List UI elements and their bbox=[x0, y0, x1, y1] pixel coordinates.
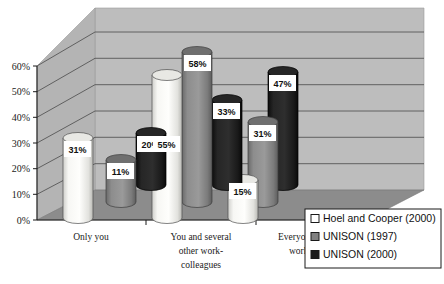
data-label-hoelcooper-g2: 55% bbox=[153, 136, 180, 152]
data-label-unison2000-g3: 47% bbox=[269, 75, 296, 91]
legend-item-unison-2000[interactable]: UNISON (2000) bbox=[311, 248, 397, 260]
cylinder-3d-bar-chart: 0% 10% 20% 30% 40% 50% 60% bbox=[0, 0, 444, 284]
y-tick-label-50: 50% bbox=[12, 86, 30, 97]
category-label-1: Only you bbox=[73, 232, 109, 242]
legend-label-hoel-and-cooper: Hoel and Cooper (2000) bbox=[323, 212, 436, 224]
legend-swatch-unison-2000 bbox=[311, 251, 319, 259]
data-label-unison1997-g2: 58% bbox=[184, 55, 211, 71]
svg-text:55%: 55% bbox=[157, 140, 175, 150]
legend-label-unison-2000: UNISON (2000) bbox=[323, 248, 397, 260]
legend: Hoel and Cooper (2000) UNISON (1997) UNI… bbox=[305, 209, 441, 268]
svg-text:47%: 47% bbox=[273, 79, 291, 89]
svg-text:33%: 33% bbox=[217, 107, 235, 117]
data-label-unison1997-g3: 31% bbox=[249, 125, 276, 141]
svg-text:15%: 15% bbox=[233, 187, 251, 197]
data-label-hoelcooper-g3: 15% bbox=[229, 183, 256, 199]
y-tick-label-10: 10% bbox=[12, 189, 30, 200]
y-tick-label-60: 60% bbox=[12, 61, 30, 72]
data-label-unison2000-g2: 33% bbox=[213, 103, 240, 119]
legend-label-unison-1997: UNISON (1997) bbox=[323, 230, 397, 242]
chart-container: 0% 10% 20% 30% 40% 50% 60% bbox=[0, 0, 444, 284]
svg-text:31%: 31% bbox=[68, 145, 86, 155]
legend-item-unison-1997[interactable]: UNISON (1997) bbox=[311, 230, 397, 242]
y-tick-label-40: 40% bbox=[12, 112, 30, 123]
category-label-2-line2: other work- bbox=[179, 246, 224, 256]
data-label-hoelcooper-g1: 31% bbox=[64, 141, 91, 157]
y-tick-label-0: 0% bbox=[17, 215, 30, 226]
y-tick-label-30: 30% bbox=[12, 138, 30, 149]
svg-text:11%: 11% bbox=[112, 167, 130, 177]
y-tick-label-20: 20% bbox=[12, 163, 30, 174]
data-label-unison1997-g1: 11% bbox=[107, 163, 134, 179]
y-axis: 0% 10% 20% 30% 40% 50% 60% bbox=[12, 61, 37, 226]
legend-swatch-unison-1997 bbox=[311, 233, 319, 241]
svg-text:31%: 31% bbox=[253, 129, 271, 139]
bar-unison1997-g1[interactable] bbox=[106, 155, 136, 208]
svg-text:58%: 58% bbox=[188, 59, 206, 69]
legend-item-hoel-and-cooper[interactable]: Hoel and Cooper (2000) bbox=[311, 212, 436, 224]
legend-swatch-hoel-and-cooper bbox=[311, 215, 319, 223]
category-label-2-line3: colleagues bbox=[181, 260, 221, 270]
category-label-2-line1: You and several bbox=[171, 232, 232, 242]
category-labels: Only you You and several other work- col… bbox=[73, 232, 345, 270]
